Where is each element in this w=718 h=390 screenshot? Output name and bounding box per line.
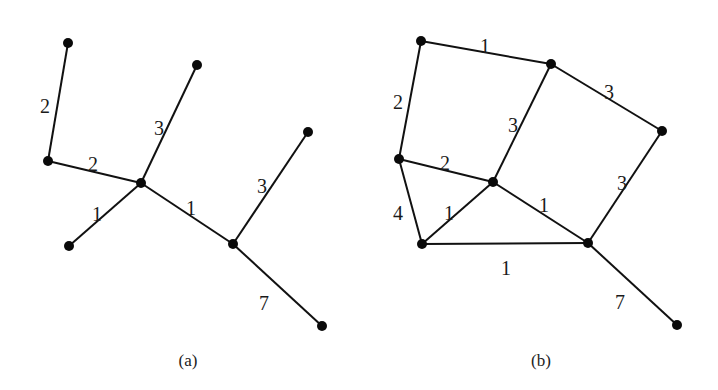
figure-b-caption: (b) bbox=[531, 351, 551, 370]
figure-a-nodes bbox=[43, 38, 327, 331]
node-b6 bbox=[417, 239, 427, 249]
node-a3 bbox=[43, 156, 53, 166]
edge-weight-label: 4 bbox=[393, 202, 403, 224]
edge-a7-a8 bbox=[233, 244, 322, 326]
edge-a4-a2 bbox=[141, 65, 197, 183]
edge-weight-label: 7 bbox=[615, 291, 625, 313]
edge-weight-label: 2 bbox=[393, 91, 403, 113]
weighted-graphs-diagram: 2231137 (a) 12332411317 (b) bbox=[0, 0, 718, 390]
figure-a-edge-weights: 2231137 bbox=[40, 95, 269, 314]
node-b4 bbox=[394, 154, 404, 164]
edge-b5-b6 bbox=[422, 182, 493, 244]
figure-a-edges bbox=[48, 43, 322, 326]
node-a5 bbox=[303, 127, 313, 137]
edge-weight-label: 1 bbox=[444, 202, 454, 224]
edge-b2-b5 bbox=[493, 64, 551, 182]
edge-weight-label: 3 bbox=[154, 117, 164, 139]
figure-b-nodes bbox=[394, 36, 682, 330]
node-b3 bbox=[657, 126, 667, 136]
node-a1 bbox=[63, 38, 73, 48]
edge-weight-label: 3 bbox=[617, 172, 627, 194]
node-a8 bbox=[317, 321, 327, 331]
edge-a4-a6 bbox=[69, 183, 141, 246]
node-b8 bbox=[672, 320, 682, 330]
node-a7 bbox=[228, 239, 238, 249]
edge-weight-label: 2 bbox=[440, 152, 450, 174]
edge-b6-b7 bbox=[422, 243, 588, 244]
node-a2 bbox=[192, 60, 202, 70]
edge-weight-label: 7 bbox=[259, 292, 269, 314]
edge-weight-label: 2 bbox=[88, 153, 98, 175]
edge-weight-label: 1 bbox=[539, 194, 549, 216]
node-b1 bbox=[416, 36, 426, 46]
edge-a7-a5 bbox=[233, 132, 308, 244]
node-b7 bbox=[583, 238, 593, 248]
figure-b-edges bbox=[399, 41, 677, 325]
edge-weight-label: 1 bbox=[501, 257, 511, 279]
edge-weight-label: 1 bbox=[480, 35, 490, 57]
edge-weight-label: 1 bbox=[186, 197, 196, 219]
figure-b-graph: 12332411317 (b) bbox=[393, 35, 682, 370]
node-a6 bbox=[64, 241, 74, 251]
node-a4 bbox=[136, 178, 146, 188]
edge-weight-label: 2 bbox=[40, 95, 50, 117]
node-b2 bbox=[546, 59, 556, 69]
edge-weight-label: 1 bbox=[92, 203, 102, 225]
figure-a-caption: (a) bbox=[179, 351, 198, 370]
edge-weight-label: 3 bbox=[604, 81, 614, 103]
figure-b-edge-weights: 12332411317 bbox=[393, 35, 627, 313]
edge-b7-b8 bbox=[588, 243, 677, 325]
edge-weight-label: 3 bbox=[257, 175, 267, 197]
edge-a1-a3 bbox=[48, 43, 68, 161]
node-b5 bbox=[488, 177, 498, 187]
edge-weight-label: 3 bbox=[508, 114, 518, 136]
figure-a-tree: 2231137 (a) bbox=[40, 38, 327, 370]
